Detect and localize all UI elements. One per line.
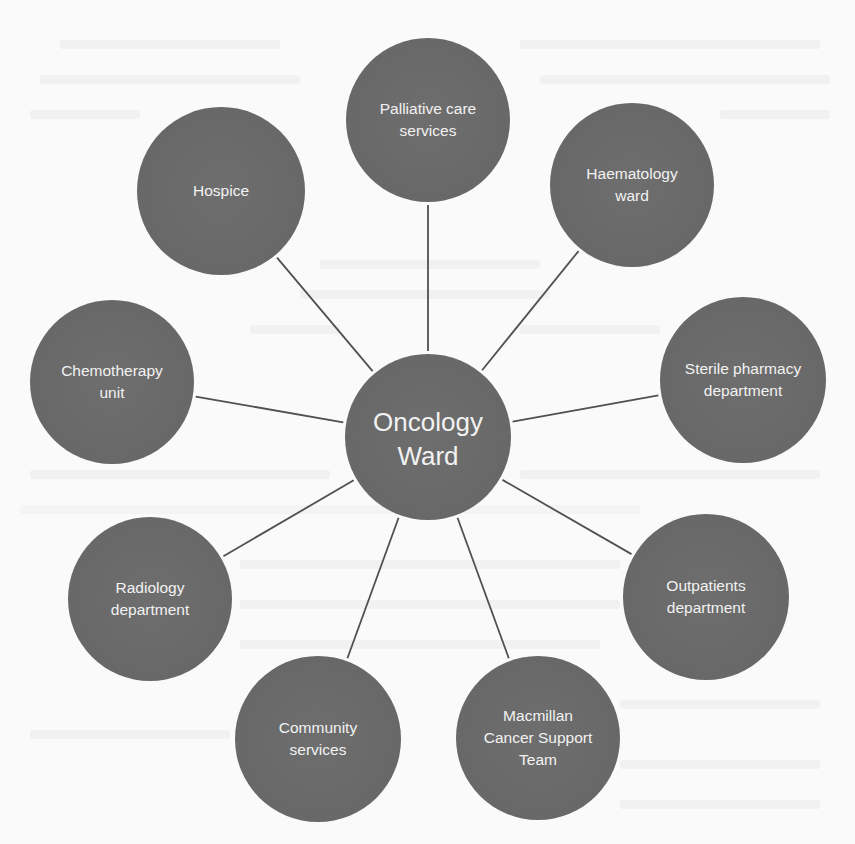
node-palliative-label: Palliative care services [374,98,483,142]
node-macmillan-label: Macmillan Cancer Support Team [478,705,599,771]
connector-hospice [277,258,373,372]
connector-community [347,518,398,658]
node-sterile: Sterile pharmacy department [660,297,826,463]
connector-chemotherapy [196,397,344,423]
node-radiology: Radiology department [68,517,232,681]
node-community: Community services [235,656,401,822]
node-hospice-label: Hospice [187,180,255,202]
node-radiology-label: Radiology department [105,577,195,621]
node-macmillan: Macmillan Cancer Support Team [456,656,620,820]
node-chemotherapy-label: Chemotherapy unit [55,360,169,404]
node-outpatients: Outpatients department [623,514,789,680]
hub-node-oncology-ward: Oncology Ward [345,354,511,520]
connector-radiology [223,480,353,556]
connector-haematology [482,251,578,370]
node-hospice: Hospice [137,107,305,275]
node-haematology: Haematology ward [550,103,714,267]
node-community-label: Community services [273,717,363,761]
connector-macmillan [458,518,509,658]
connector-sterile [513,395,659,421]
node-sterile-label: Sterile pharmacy department [679,358,807,402]
node-outpatients-label: Outpatients department [660,575,751,619]
node-chemotherapy: Chemotherapy unit [30,300,194,464]
node-palliative: Palliative care services [346,38,510,202]
connector-outpatients [503,480,632,554]
hub-node-oncology-ward-label: Oncology Ward [367,405,489,473]
node-haematology-label: Haematology ward [580,163,683,207]
